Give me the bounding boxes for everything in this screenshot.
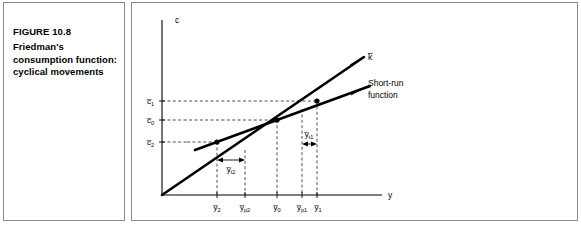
xtick-label-y1: y̅1 bbox=[313, 203, 321, 213]
arrow-head-right-yt1 bbox=[311, 142, 317, 147]
figure-title: Friedman's consumption function: cyclica… bbox=[13, 41, 121, 79]
data-point-y1-c1 bbox=[314, 98, 319, 103]
caption-block: FIGURE 10.8 Friedman's consumption funct… bbox=[13, 25, 121, 79]
xtick-label-y2: y̅2 bbox=[212, 203, 220, 213]
annotation-label-yt2: y̅t2 bbox=[226, 165, 236, 175]
figure-number: FIGURE 10.8 bbox=[13, 25, 121, 38]
axes-group bbox=[162, 20, 382, 195]
consumption-function-chart: c y k̅ Short-run function c̅1 c̅0 c̅2 y̅… bbox=[132, 3, 577, 220]
figure-caption-panel: FIGURE 10.8 Friedman's consumption funct… bbox=[3, 2, 125, 221]
data-point-y0-c0 bbox=[274, 117, 279, 122]
xtick-label-y0: y̅0 bbox=[272, 203, 280, 213]
short-run-function-label-line2: function bbox=[368, 90, 398, 100]
long-run-function-label: k̅ bbox=[367, 52, 373, 62]
y-axis-label: c bbox=[175, 15, 180, 25]
figure-plot-panel: c y k̅ Short-run function c̅1 c̅0 c̅2 y̅… bbox=[131, 2, 578, 221]
annotation-arrow-yt1 bbox=[302, 142, 317, 147]
ytick-label-c2: c̅2 bbox=[146, 138, 154, 148]
short-run-function-label-line1: Short-run bbox=[368, 78, 404, 88]
x-axis-label: y bbox=[388, 190, 393, 200]
tick-marks-group bbox=[159, 101, 317, 198]
annotation-label-yt1: y̅t1 bbox=[304, 130, 314, 140]
annotation-arrow-yt2 bbox=[217, 158, 245, 163]
arrow-head-left-yt1 bbox=[302, 142, 308, 147]
ytick-label-c0: c̅0 bbox=[146, 116, 154, 126]
data-point-y2-c2 bbox=[214, 139, 219, 144]
leader-line-k bbox=[350, 57, 363, 65]
ytick-label-c1: c̅1 bbox=[146, 97, 154, 107]
arrow-head-right-yt2 bbox=[239, 158, 245, 163]
short-run-function-line bbox=[195, 86, 370, 150]
xtick-label-yp1: y̅p1 bbox=[296, 203, 307, 213]
xtick-label-yp2: y̅p2 bbox=[239, 203, 250, 213]
